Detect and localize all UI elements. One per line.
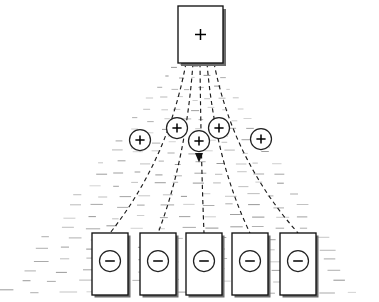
diagram-canvas <box>0 0 379 302</box>
field-line-2 <box>158 63 193 233</box>
field-line-diagram <box>0 0 379 302</box>
positive-carriers-layer <box>130 118 272 152</box>
field-line-4 <box>207 63 250 233</box>
positive-source-node[interactable] <box>178 6 226 66</box>
negative-sink-nodes-layer <box>92 233 319 298</box>
